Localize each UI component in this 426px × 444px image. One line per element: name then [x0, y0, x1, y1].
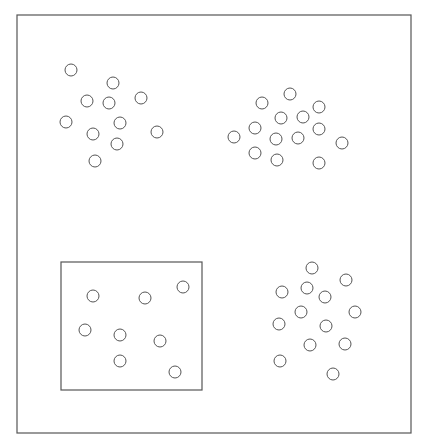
circle-point: [292, 132, 304, 144]
circle-point: [313, 157, 325, 169]
circle-point: [228, 131, 240, 143]
circle-point: [154, 335, 166, 347]
circle-point: [339, 338, 351, 350]
circle-point: [249, 122, 261, 134]
circle-point: [349, 306, 361, 318]
circle-point: [151, 126, 163, 138]
circle-point: [304, 339, 316, 351]
circle-point: [87, 128, 99, 140]
circle-point: [103, 97, 115, 109]
circle-point: [297, 111, 309, 123]
circle-point: [271, 154, 283, 166]
circle-point: [276, 286, 288, 298]
circle-point: [114, 117, 126, 129]
circle-point: [139, 292, 151, 304]
cluster-bottom-right: [273, 262, 361, 380]
circle-point: [114, 329, 126, 341]
circle-point: [65, 64, 77, 76]
circle-point: [320, 320, 332, 332]
circle-point: [313, 123, 325, 135]
circle-point: [89, 155, 101, 167]
circle-point: [319, 291, 331, 303]
circle-clusters: [60, 64, 361, 380]
circle-point: [306, 262, 318, 274]
circle-point: [249, 147, 261, 159]
circle-point: [135, 92, 147, 104]
circle-point: [256, 97, 268, 109]
circle-point: [177, 281, 189, 293]
circle-point: [340, 274, 352, 286]
circle-point: [327, 368, 339, 380]
circle-point: [301, 282, 313, 294]
circle-point: [114, 355, 126, 367]
circle-point: [107, 77, 119, 89]
circle-point: [81, 95, 93, 107]
circle-point: [270, 133, 282, 145]
circle-point: [79, 324, 91, 336]
circle-point: [295, 306, 307, 318]
circle-point: [273, 318, 285, 330]
cluster-top-right: [228, 88, 348, 169]
circle-point: [169, 366, 181, 378]
circle-point: [284, 88, 296, 100]
circle-point: [313, 101, 325, 113]
cluster-bottom-left-boxed: [79, 281, 189, 378]
circle-point: [275, 112, 287, 124]
cluster-top-left: [60, 64, 163, 167]
circle-point: [60, 116, 72, 128]
circle-point: [336, 137, 348, 149]
circle-point: [274, 355, 286, 367]
circle-point: [87, 290, 99, 302]
circle-point: [111, 138, 123, 150]
outer-frame: [17, 15, 411, 433]
diagram-canvas: [0, 0, 426, 444]
